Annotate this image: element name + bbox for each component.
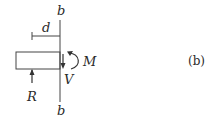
free-body-diagram: b b d V M R (b) [0,0,219,122]
beam-segment [16,52,60,69]
reaction-label: R [26,89,37,104]
section-label-bottom: b [57,103,65,118]
shear-arrowhead-icon [61,63,66,69]
panel-label: (b) [188,54,205,68]
moment-label: M [82,54,97,69]
shear-label: V [64,72,75,87]
moment-arrow [69,53,78,69]
reaction-arrowhead-icon [30,69,35,75]
section-label-top: b [57,3,65,18]
dimension-label: d [42,20,50,35]
